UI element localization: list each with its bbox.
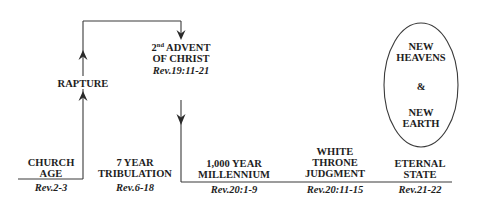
ellipse-new-heavens: NEW HEAVENS xyxy=(396,41,445,63)
ellipse-ampersand: & xyxy=(417,81,426,92)
period-church-age-ref: Rev.2-3 xyxy=(35,182,68,193)
second-advent-label: 2nd ADVENT OF CHRIST xyxy=(152,42,211,64)
period-eternal-state: ETERNAL STATE xyxy=(395,158,446,180)
ellipse-new-earth: NEW EARTH xyxy=(403,107,440,129)
period-millennium: 1,000 YEAR MILLENNIUM xyxy=(198,158,270,180)
rapture-label: RAPTURE xyxy=(58,78,109,89)
period-church-age: CHURCH AGE xyxy=(28,157,75,179)
period-white-throne-ref: Rev.20:11-15 xyxy=(307,184,363,195)
period-white-throne-judgment: WHITE THRONE JUDGMENT xyxy=(305,146,365,179)
period-tribulation: 7 YEAR TRIBULATION xyxy=(98,157,172,179)
end-times-timeline-diagram: RAPTURE 2nd ADVENT OF CHRIST Rev.19:11-2… xyxy=(0,0,480,204)
period-millennium-ref: Rev.20:1-9 xyxy=(211,184,258,195)
period-tribulation-ref: Rev.6-18 xyxy=(116,182,154,193)
second-advent-ref: Rev.19:11-21 xyxy=(153,65,209,76)
period-eternal-state-ref: Rev.21-22 xyxy=(398,184,441,195)
